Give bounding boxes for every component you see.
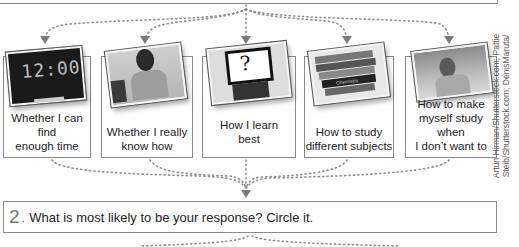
man-body (130, 69, 169, 101)
hand (111, 80, 128, 104)
option-label: How I learn best (203, 118, 295, 146)
question-number-punct: . (22, 210, 26, 225)
option-label: How to make myself study when I don’t wa… (406, 97, 496, 153)
option-label: Whether I really know how (102, 125, 192, 153)
option-label: Whether I can find enough time (4, 111, 90, 153)
option-card-motivation[interactable]: How to make myself study when I don’t wa… (405, 56, 497, 158)
woman-body (434, 73, 470, 97)
question-number: 2 (9, 206, 20, 228)
clock-display: 12:00 (21, 56, 82, 82)
man-head (135, 48, 156, 72)
books-stack-image: Chemistry (308, 43, 390, 106)
question-text: What is most likely to be your response?… (29, 210, 313, 225)
option-card-different-subjects[interactable]: Chemistry How to study different subject… (304, 56, 394, 158)
alarm-clock-image: 12:00 (6, 46, 86, 106)
option-card-know-how[interactable]: Whether I really know how (101, 56, 193, 158)
question-sign-image: ? (206, 41, 291, 105)
option-card-learn-best[interactable]: ? How I learn best (202, 56, 296, 158)
woman-studying-image (411, 43, 493, 102)
option-label: How to study different subjects (305, 125, 393, 153)
man-portrait-image (105, 43, 187, 108)
question-2-box: 2 . What is most likely to be your respo… (3, 201, 497, 233)
photo-credit: Artun Hirman/Shutterstock.com; Pattie St… (486, 44, 516, 168)
option-card-find-time[interactable]: 12:00 Whether I can find enough time (3, 56, 91, 158)
clock-base (34, 97, 64, 104)
person-below (232, 81, 269, 101)
